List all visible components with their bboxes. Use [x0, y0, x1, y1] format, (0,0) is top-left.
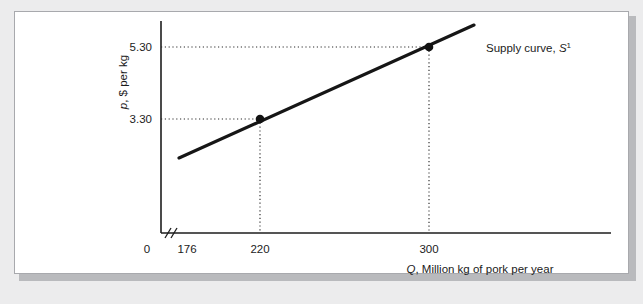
data-point-220-330	[256, 115, 265, 124]
y-axis-title: p, $ per kg	[117, 55, 129, 110]
x-axis-title: Q, Million kg of pork per year	[406, 263, 553, 275]
supply-curve-chart: 5.30 3.30 0 176 220 300 p, $ per kg Q, M…	[15, 12, 630, 275]
x-axis-title-symbol: Q	[406, 263, 415, 275]
x-tick-label-300: 300	[419, 243, 438, 255]
x-tick-label-220: 220	[250, 243, 269, 255]
x-tick-label-176: 176	[177, 243, 196, 255]
page-top-clipped-text	[0, 0, 643, 10]
supply-curve-label-text: Supply curve,	[486, 42, 559, 54]
data-point-300-530	[425, 43, 434, 52]
y-tick-label-330: 3.30	[130, 113, 152, 125]
supply-curve-label: Supply curve, S1	[486, 41, 572, 54]
figure-card: 5.30 3.30 0 176 220 300 p, $ per kg Q, M…	[14, 11, 629, 274]
y-tick-label-530: 5.30	[130, 41, 152, 53]
x-axis-title-rest: , Million kg of pork per year	[415, 263, 553, 275]
y-axis-title-rest: , $ per kg	[117, 55, 129, 103]
x-tick-label-0: 0	[144, 243, 150, 255]
supply-curve-label-superscript: 1	[567, 41, 572, 50]
